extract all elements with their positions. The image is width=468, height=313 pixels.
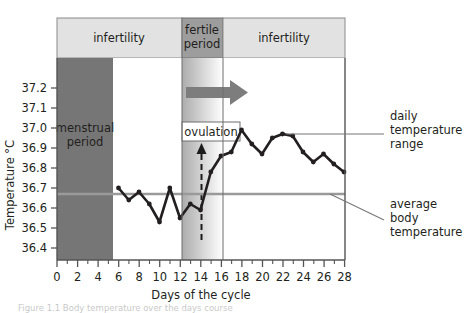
x-tick-1: 2 <box>74 270 81 284</box>
x-axis-title: Days of the cycle <box>151 288 250 302</box>
x-tick-13: 26 <box>317 270 332 284</box>
average-body-label-line2: body <box>390 211 419 225</box>
y-tick-3: 36.9 <box>21 141 47 155</box>
temperature-chart: infertility fertile period infertility m… <box>0 0 468 313</box>
x-tick-8: 16 <box>214 270 229 284</box>
menstrual-period-block <box>57 58 113 260</box>
x-tick-10: 20 <box>255 270 270 284</box>
plot-area: menstrual period ovulation <box>56 58 347 260</box>
phase-band-strip: infertility fertile period infertility <box>57 18 345 58</box>
daily-range-label-line2: temperature <box>390 123 462 137</box>
band-infertility-right-label: infertility <box>258 31 310 45</box>
x-tick-5: 10 <box>152 270 167 284</box>
daily-range-label-line1: daily <box>390 109 418 123</box>
y-tick-7: 36.5 <box>21 221 47 235</box>
average-body-label-line3: temperature <box>390 225 462 239</box>
daily-range-label-line3: range <box>390 137 423 151</box>
y-tick-2: 37.0 <box>21 121 47 135</box>
x-tick-14: 28 <box>337 270 352 284</box>
y-tick-6: 36.6 <box>21 201 47 215</box>
y-axis-title: Temperature °C <box>3 140 17 231</box>
x-tick-3: 6 <box>115 270 122 284</box>
x-tick-0: 0 <box>53 270 60 284</box>
annotation-average-body-temperature: average body temperature <box>330 194 462 239</box>
y-tick-5: 36.7 <box>21 181 47 195</box>
x-tick-6: 12 <box>173 270 188 284</box>
x-tick-2: 4 <box>94 270 101 284</box>
y-tick-0: 37.2 <box>21 81 47 95</box>
figure-container: infertility fertile period infertility m… <box>0 0 468 313</box>
ovulation-label: ovulation <box>184 125 237 139</box>
x-tick-12: 24 <box>296 270 311 284</box>
x-tick-7: 14 <box>193 270 208 284</box>
band-infertility-left-label: infertility <box>93 31 145 45</box>
y-tick-4: 36.8 <box>21 161 47 175</box>
y-tick-1: 37.1 <box>21 101 47 115</box>
x-tick-9: 18 <box>235 270 250 284</box>
menstrual-period-label-line2: period <box>67 135 104 149</box>
x-axis: 0 2 4 6 8 10 12 14 16 18 20 22 24 26 28 … <box>53 260 352 302</box>
y-axis: 37.2 37.1 37.0 36.9 36.8 36.7 36.6 36.5 … <box>3 58 57 260</box>
y-tick-8: 36.4 <box>21 241 47 255</box>
band-fertile-period-label-line2: period <box>184 37 221 51</box>
average-body-label-line1: average <box>390 197 437 211</box>
menstrual-period-label-line1: menstrual <box>56 121 114 135</box>
x-tick-11: 22 <box>276 270 291 284</box>
band-fertile-period-label-line1: fertile <box>185 23 219 37</box>
x-tick-4: 8 <box>136 270 143 284</box>
figure-caption: Figure 1.1 Body temperature over the day… <box>18 303 233 313</box>
